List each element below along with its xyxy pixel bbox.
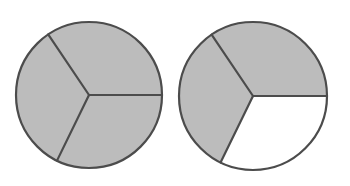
- circle-left: [16, 22, 162, 168]
- figure-container: [0, 0, 350, 186]
- fraction-circles-figure: [0, 0, 350, 186]
- circle-right: [179, 22, 327, 170]
